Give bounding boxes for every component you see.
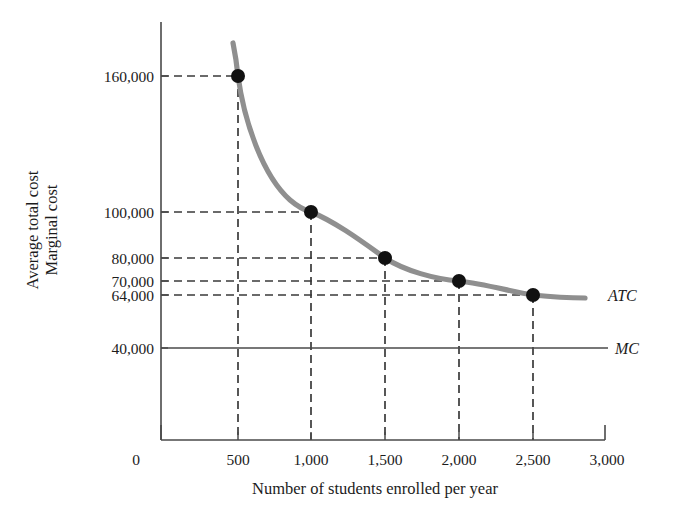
x-tick-label-3000: 3,000 [590,451,625,468]
x-tick-label-1000: 1,000 [294,451,329,468]
data-point-2000-70000 [452,274,466,288]
y-axis-title-line1: Average total cost [23,170,42,289]
mc-series-label: MC [614,340,639,357]
x-tick-label-500: 500 [226,451,250,468]
horizontal-guide-lines [161,76,533,295]
y-axis-tick-labels: 160,000 100,000 80,000 70,000 64,000 40,… [104,68,155,357]
data-point-2500-64000 [526,288,540,302]
chart-figure: 160,000 100,000 80,000 70,000 64,000 40,… [0,0,678,521]
chart-canvas: 160,000 100,000 80,000 70,000 64,000 40,… [0,0,678,521]
x-tick-label-0: 0 [132,451,140,468]
data-point-500-160000 [231,69,245,83]
y-tick-label-80000: 80,000 [111,250,154,267]
y-tick-label-160000: 160,000 [104,68,155,85]
x-tick-label-2000: 2,000 [442,451,477,468]
y-tick-label-40000: 40,000 [111,340,154,357]
x-axis-ticks [238,432,533,440]
y-tick-label-64000: 64,000 [111,287,154,304]
data-point-1000-100000 [304,205,318,219]
atc-series-curve [233,43,585,298]
x-tick-label-2500: 2,500 [516,451,551,468]
y-tick-label-100000: 100,000 [104,204,155,221]
x-axis-title: Number of students enrolled per year [252,479,499,498]
data-point-1500-80000 [378,251,392,265]
atc-series-label: ATC [607,287,637,304]
x-axis-tick-labels: 0 500 1,000 1,500 2,000 2,500 3,000 [132,451,625,468]
x-tick-label-1500: 1,500 [368,451,403,468]
y-axis-title-line2: Marginal cost [42,184,61,275]
y-axis-ticks [161,76,168,348]
